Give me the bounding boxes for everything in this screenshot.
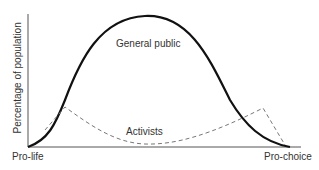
activists-label: Activists: [126, 126, 163, 137]
pro-life-label: Pro-life: [12, 151, 44, 162]
pro-choice-label: Pro-choice: [264, 151, 312, 162]
y-axis-label: Percentage of population: [12, 24, 23, 134]
chart-canvas: [0, 0, 319, 170]
general-public-label: General public: [116, 38, 180, 49]
